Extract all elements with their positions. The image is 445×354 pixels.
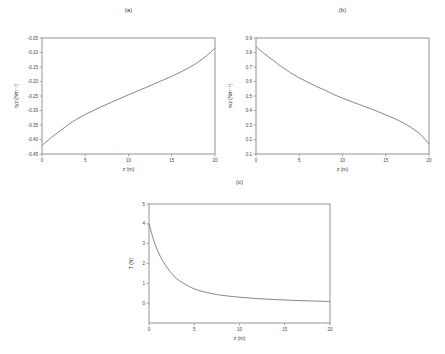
y-tick-label: 0.6: [246, 79, 253, 84]
y-tick-label: -0.25: [28, 94, 39, 99]
y-tick-label: -0.20: [28, 79, 39, 84]
y-tick-label: 3: [142, 241, 145, 246]
y-tick-label: 5: [142, 202, 145, 207]
x-axis-title: z (m): [123, 166, 135, 172]
y-axis-title: τyz (Nm⁻¹): [13, 84, 19, 108]
y-tick-label: 4: [142, 221, 145, 226]
series-line-tau-xz: [256, 47, 429, 144]
panel-label: (c): [236, 179, 243, 185]
plot-frame: [149, 204, 330, 323]
chart-panel-a: (a)05101520-0.45-0.40-0.35-0.30-0.25-0.2…: [13, 7, 218, 172]
chart-panel-c: (c)05101520012345z (m)T (N): [128, 179, 333, 341]
x-tick-label: 15: [169, 158, 175, 163]
x-tick-label: 0: [255, 158, 258, 163]
x-tick-label: 5: [84, 158, 87, 163]
x-tick-label: 5: [193, 327, 196, 332]
x-tick-label: 5: [298, 158, 301, 163]
x-tick-label: 10: [126, 158, 132, 163]
y-tick-label: 0.5: [246, 94, 253, 99]
y-tick-label: 0.7: [246, 65, 253, 70]
x-tick-label: 0: [148, 327, 151, 332]
x-tick-label: 15: [282, 327, 288, 332]
x-tick-label: 0: [41, 158, 44, 163]
panel-label: (b): [339, 7, 346, 13]
y-tick-label: -0.10: [28, 50, 39, 55]
y-tick-label: 0.8: [246, 50, 253, 55]
y-tick-label: -0.45: [28, 152, 39, 157]
figure: (a)05101520-0.45-0.40-0.35-0.30-0.25-0.2…: [0, 0, 445, 354]
panel-label: (a): [125, 7, 132, 13]
y-tick-label: -0.40: [28, 137, 39, 142]
chart-panel-b: (b)051015200.10.20.30.40.50.60.70.80.9z …: [227, 7, 432, 172]
x-axis-title: z (m): [337, 166, 349, 172]
y-axis-title: T (N): [128, 258, 134, 270]
x-tick-label: 10: [237, 327, 243, 332]
x-tick-label: 20: [212, 158, 218, 163]
x-tick-label: 20: [426, 158, 432, 163]
y-tick-label: 0.4: [246, 108, 253, 113]
y-tick-label: 0.2: [246, 137, 253, 142]
y-tick-label: 0: [142, 301, 145, 306]
y-tick-label: 0.1: [246, 152, 253, 157]
y-tick-label: -0.15: [28, 65, 39, 70]
y-tick-label: -0.35: [28, 123, 39, 128]
y-tick-label: -0.05: [28, 36, 39, 41]
x-tick-label: 15: [383, 158, 389, 163]
series-line-T: [149, 224, 330, 302]
y-tick-label: 0.9: [246, 36, 253, 41]
series-line-tau-yz: [42, 48, 215, 145]
plot-frame: [256, 38, 429, 154]
x-tick-label: 10: [340, 158, 346, 163]
plot-frame: [42, 38, 215, 154]
y-tick-label: 1: [142, 281, 145, 286]
y-tick-label: -0.30: [28, 108, 39, 113]
y-tick-label: 0.3: [246, 123, 253, 128]
x-axis-title: z (m): [234, 335, 246, 341]
y-tick-label: 2: [142, 261, 145, 266]
y-axis-title: τxz (Nm⁻¹): [227, 84, 233, 108]
x-tick-label: 20: [327, 327, 333, 332]
